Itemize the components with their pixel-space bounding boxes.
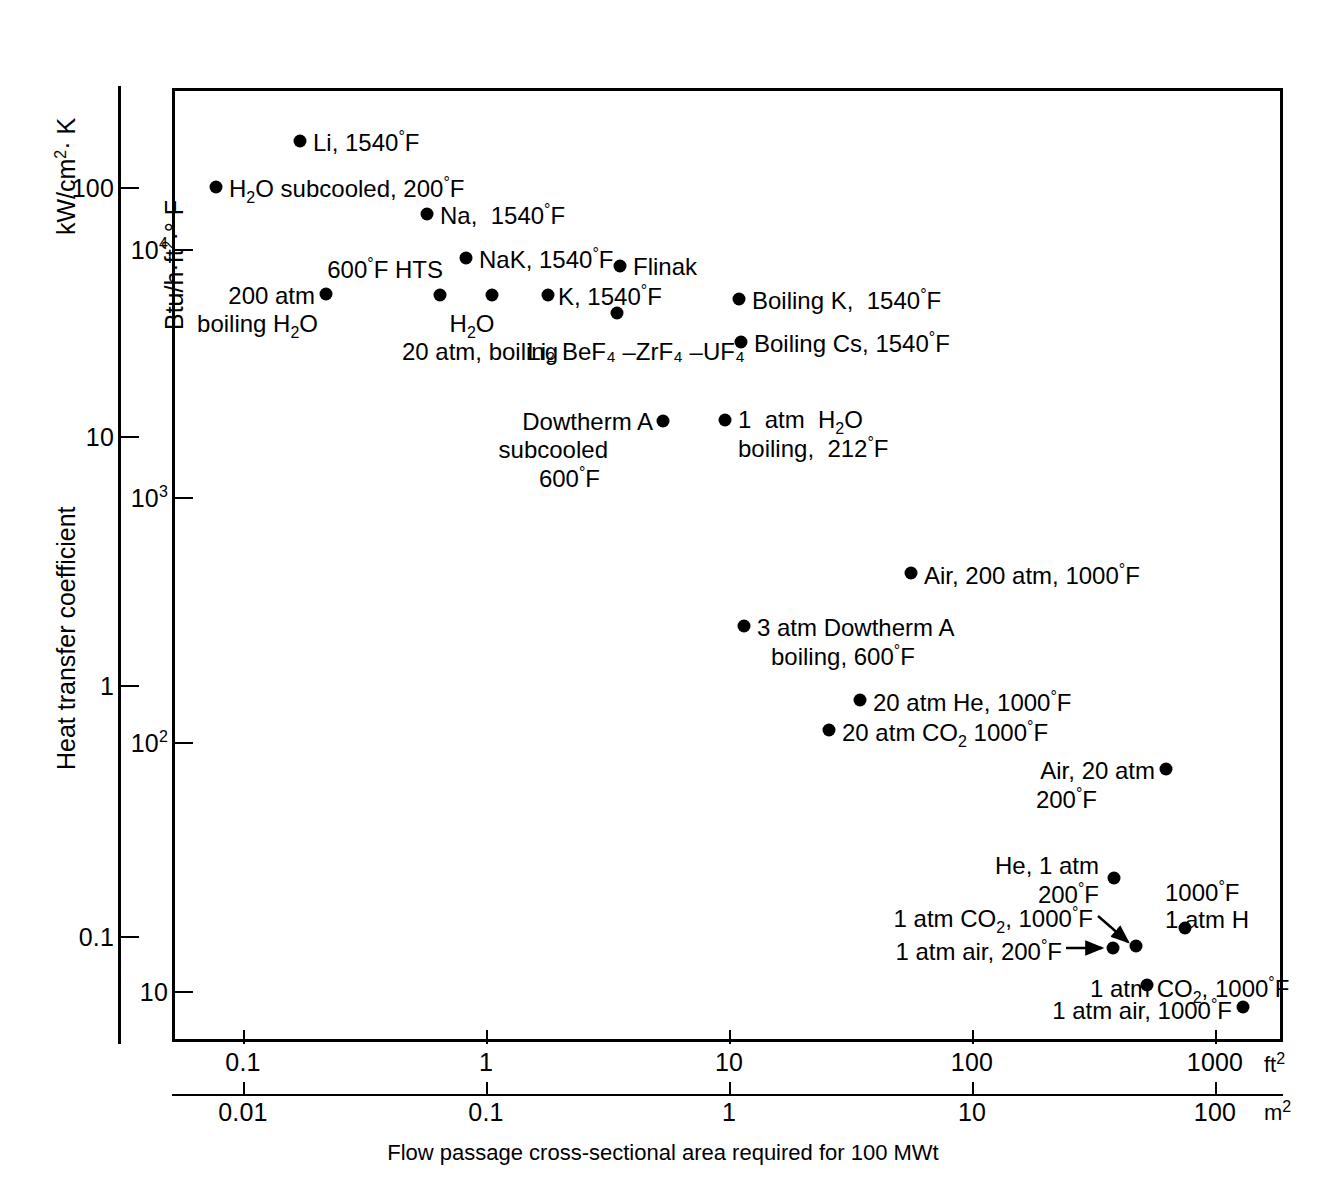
label-200atm-sub: 2	[290, 324, 299, 341]
label-dowtherm-line2: subcooled	[499, 436, 608, 464]
label-boiling-cs: Boiling Cs, 1540°F	[754, 329, 950, 358]
x-tick-label-ft2-10: 10	[715, 1048, 743, 1077]
label-air11000-tail: F	[1217, 997, 1232, 1024]
y-tick-btu-1e3	[175, 497, 193, 499]
x-unit-m-head: m	[1264, 1100, 1282, 1125]
label-dow3-l2: boiling, 600	[771, 643, 894, 670]
x-unit-m-sup: 2	[1282, 1098, 1291, 1115]
label-200atm-a: boiling H	[197, 310, 290, 337]
label-h1000-tail: F	[1225, 879, 1240, 906]
label-air20-tail: F	[1082, 786, 1097, 813]
label-air-20atm-line1: Air, 20 atm	[1040, 757, 1155, 785]
x-unit-m2: m2	[1264, 1098, 1291, 1126]
label-1atm-co2-1000f: 1 atm CO2, 1000°F	[894, 904, 1093, 938]
label-co2low-tail: F	[1275, 975, 1290, 1002]
data-point-3atm-dowtherm-a	[738, 620, 751, 633]
label-co220-sub: 2	[958, 733, 967, 750]
label-k-tail: F	[647, 283, 662, 310]
y-tick-btu-10	[175, 991, 193, 993]
label-he20-tail: F	[1057, 689, 1072, 716]
x-tick-label-m2-1: 1	[722, 1098, 736, 1127]
label-co21-tail: F	[1078, 905, 1093, 932]
data-point-boiling-k	[733, 293, 746, 306]
x-tick-label-m2-10: 10	[958, 1098, 986, 1127]
unit-kw-tail: · K	[52, 118, 80, 150]
label-1atm-air-200f: 1 atm air, 200°F	[896, 937, 1063, 966]
x-tick-ft2-100	[972, 1030, 974, 1044]
data-point-1atm-h2o-boiling	[719, 414, 732, 427]
data-point-k-1540	[542, 289, 555, 302]
data-point-1atm-co2-1000f	[1130, 940, 1143, 953]
label-na-tail: F	[550, 202, 565, 229]
x-unit-ft-sup: 2	[1276, 1050, 1285, 1067]
label-co220-tail: F	[1033, 719, 1048, 746]
label-dowtherm-line3: 600°F	[539, 464, 600, 493]
unit-btu-tail: ·° F	[160, 200, 188, 241]
label-dowtherm-line1: Dowtherm A	[522, 408, 653, 436]
x-tick-m2-10	[972, 1082, 974, 1096]
data-point-600f-hts	[434, 289, 447, 302]
y-tick-kw-0.1	[121, 936, 139, 938]
label-nak: NaK, 1540°F	[479, 245, 614, 274]
unit-btu-sup: 2	[160, 241, 177, 250]
label-h2o-c: O subcooled, 200	[255, 175, 443, 202]
x-axis-m2-line	[172, 1094, 1283, 1096]
x-tick-label-m2-0.1: 0.1	[468, 1098, 503, 1127]
label-he-1atm-line1: He, 1 atm	[995, 852, 1099, 880]
label-1atm-c: O	[844, 406, 863, 433]
x-tick-m2-1	[729, 1082, 731, 1096]
label-200atm-c: O	[299, 310, 318, 337]
unit-btu-head: Btu/h·ft	[160, 249, 188, 330]
label-bcs-text: Boiling Cs, 1540	[754, 330, 929, 357]
y-tick-kw-10	[121, 436, 139, 438]
unit-kw-sup: 2	[52, 150, 69, 159]
label-air-200atm: Air, 200 atm, 1000°F	[924, 561, 1140, 590]
label-h2osm-a: H	[450, 310, 467, 337]
x-tick-ft2-1000	[1215, 1030, 1217, 1044]
label-20atm-he: 20 atm He, 1000°F	[873, 688, 1072, 717]
label-he20-text: 20 atm He, 1000	[873, 689, 1050, 716]
x-tick-ft2-1	[486, 1030, 488, 1044]
label-1atm-l2: boiling, 212	[738, 435, 867, 462]
label-h2o-subcooled: H2O subcooled, 200°F	[229, 174, 464, 208]
data-point-nak	[460, 252, 473, 265]
x-unit-ft2: ft2	[1264, 1050, 1285, 1078]
label-co21-sub: 2	[996, 919, 1005, 936]
x-tick-m2-100	[1215, 1082, 1217, 1096]
label-air1200-tail: F	[1047, 938, 1062, 965]
x-tick-label-ft2-100: 100	[951, 1048, 993, 1077]
x-tick-ft2-0.1	[243, 1030, 245, 1044]
data-point-he-1atm-200f	[1108, 872, 1121, 885]
y-axis-unit-kw: kW/cm2· K	[52, 118, 81, 235]
y-tick-btu-1e2	[175, 742, 193, 744]
y-axis-title: Heat transfer coefficient	[52, 506, 81, 770]
btu-exp: 3	[159, 483, 168, 500]
label-h2o-a: H	[229, 175, 246, 202]
label-200atm-line2: boiling H2O	[197, 310, 318, 343]
label-co220-c: 1000	[967, 719, 1027, 746]
label-nak-tail: F	[599, 246, 614, 273]
label-flinak: Flinak	[633, 253, 697, 281]
label-h2o-tail: F	[450, 175, 465, 202]
label-air1200-a: 1 atm air, 200	[896, 938, 1041, 965]
label-1atm-l2-tail: F	[874, 435, 889, 462]
label-k-1540: K, 1540°F	[558, 282, 662, 311]
y-tick-label-btu-10: 10	[140, 977, 168, 1006]
label-dow-600: 600	[539, 465, 579, 492]
btu-base: 10	[131, 729, 159, 757]
y-tick-kw-1	[121, 685, 139, 687]
label-bk-tail: F	[927, 287, 942, 314]
data-point-20atm-co2	[823, 724, 836, 737]
label-li: Li, 1540°F	[313, 128, 419, 157]
label-1atm-a: 1 atm H	[738, 406, 835, 433]
label-boiling-k: Boiling K, 1540°F	[752, 286, 941, 315]
y-axis-unit-btu: Btu/h·ft2·° F	[160, 200, 189, 330]
label-k-text: K, 1540	[558, 283, 641, 310]
btu-base: 10	[131, 484, 159, 512]
label-1atm-h-line2: 1 atm H	[1165, 906, 1249, 934]
x-tick-m2-0.1	[486, 1082, 488, 1096]
label-bk-text: Boiling K, 1540	[752, 287, 920, 314]
data-point-20atm-he	[854, 694, 867, 707]
x-tick-label-m2-0.01: 0.01	[218, 1098, 267, 1127]
label-air200-text: Air, 200 atm, 1000	[924, 562, 1119, 589]
